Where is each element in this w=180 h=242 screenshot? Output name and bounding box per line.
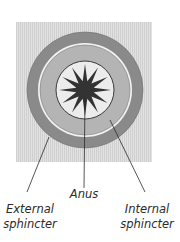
label-internal-line1: Internal <box>125 202 170 216</box>
label-anus: Anus <box>69 187 98 201</box>
sphincter-diagram: Anus External sphincter Internal sphinct… <box>0 0 180 242</box>
label-external-line1: External <box>6 202 55 216</box>
label-external-line2: sphincter <box>3 217 58 231</box>
label-internal-line2: sphincter <box>120 217 175 231</box>
